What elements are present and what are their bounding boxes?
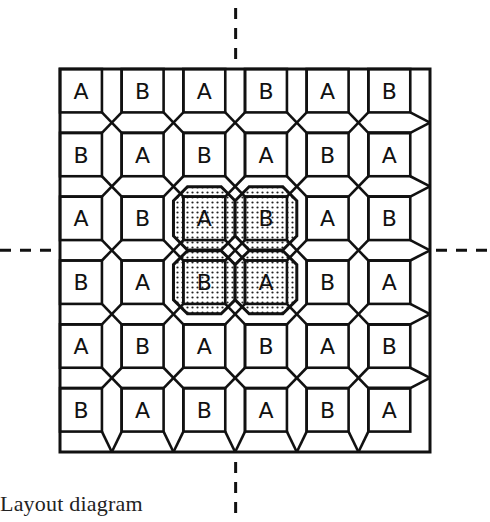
block-letter: A xyxy=(73,206,88,231)
block-letter: A xyxy=(382,270,397,295)
block-letter: B xyxy=(135,206,150,231)
block-letter: A xyxy=(258,398,273,423)
block-letter: B xyxy=(258,206,273,231)
block-letter: B xyxy=(73,270,88,295)
block-letter: A xyxy=(73,334,88,359)
block-letter: A xyxy=(382,143,397,168)
block-letter: B xyxy=(382,79,397,104)
block-letter: B xyxy=(258,79,273,104)
block-letter: B xyxy=(197,270,212,295)
block-letter: A xyxy=(135,270,150,295)
block-letter: A xyxy=(320,334,335,359)
block-letter: B xyxy=(135,79,150,104)
block-letter: B xyxy=(135,334,150,359)
block-letter: B xyxy=(382,206,397,231)
block-letter: A xyxy=(197,79,212,104)
block-letter: B xyxy=(73,143,88,168)
block-letter: A xyxy=(320,206,335,231)
layout-diagram: ABABABBABABAABABABBABABAABABABBABABA xyxy=(0,0,490,522)
block-letter: A xyxy=(197,334,212,359)
block-letter: B xyxy=(320,143,335,168)
quilt-grid xyxy=(60,69,430,452)
block-letter: B xyxy=(197,143,212,168)
block-letter: A xyxy=(73,79,88,104)
diagram-caption: Layout diagram xyxy=(0,491,143,517)
block-letter: A xyxy=(135,143,150,168)
block-letter: A xyxy=(197,206,212,231)
block-letter: B xyxy=(73,398,88,423)
block-letter: A xyxy=(258,270,273,295)
block-letter: A xyxy=(320,79,335,104)
block-letter: A xyxy=(382,398,397,423)
block-letter: B xyxy=(258,334,273,359)
block-letter: A xyxy=(258,143,273,168)
block-letter: B xyxy=(320,398,335,423)
block-letter: B xyxy=(320,270,335,295)
block-letter: B xyxy=(382,334,397,359)
block-letter: A xyxy=(135,398,150,423)
block-letter: B xyxy=(197,398,212,423)
